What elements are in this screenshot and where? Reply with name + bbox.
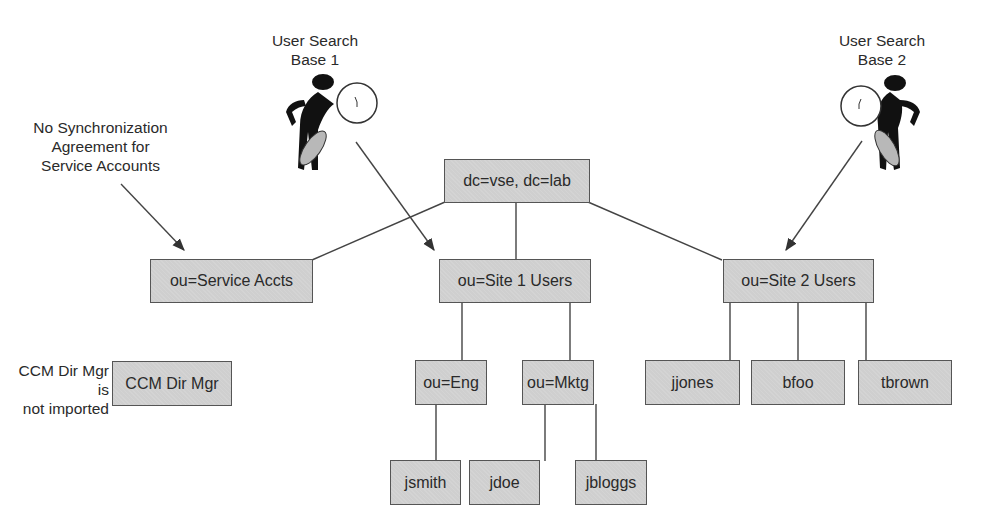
node-mktg: ou=Mktg — [522, 360, 594, 405]
no-sync-line3: Service Accounts — [18, 156, 183, 175]
searcher-2-icon — [841, 75, 920, 170]
node-site1-users: ou=Site 1 Users — [439, 259, 591, 303]
search-base-1-line1: User Search — [265, 31, 365, 50]
node-site2-users: ou=Site 2 Users — [723, 259, 874, 303]
node-ccm-dir-mgr: CCM Dir Mgr — [112, 361, 232, 406]
search-base-1-line2: Base 1 — [265, 50, 365, 69]
search-base-2-line2: Base 2 — [832, 50, 932, 69]
not-imported-line2: not imported — [10, 399, 109, 418]
node-bfoo: bfoo — [751, 360, 845, 405]
searcher-1-icon — [286, 74, 377, 170]
no-sync-label: No Synchronization Agreement for Service… — [18, 118, 183, 175]
search-base-1-label: User Search Base 1 — [265, 31, 365, 69]
node-eng: ou=Eng — [415, 360, 487, 405]
no-sync-line1: No Synchronization — [18, 118, 183, 137]
node-jjones: jjones — [645, 360, 740, 405]
no-sync-line2: Agreement for — [18, 137, 183, 156]
node-jdoe: jdoe — [469, 460, 540, 505]
node-service-accts: ou=Service Accts — [150, 259, 313, 303]
node-jbloggs: jbloggs — [575, 460, 647, 505]
search-base-2-line1: User Search — [832, 31, 932, 50]
node-root: dc=vse, dc=lab — [444, 159, 590, 203]
search-base-2-label: User Search Base 2 — [832, 31, 932, 69]
not-imported-line1: CCM Dir Mgr is — [10, 361, 109, 399]
not-imported-label: CCM Dir Mgr is not imported — [10, 361, 109, 418]
node-jsmith: jsmith — [390, 460, 461, 505]
node-tbrown: tbrown — [858, 360, 952, 405]
